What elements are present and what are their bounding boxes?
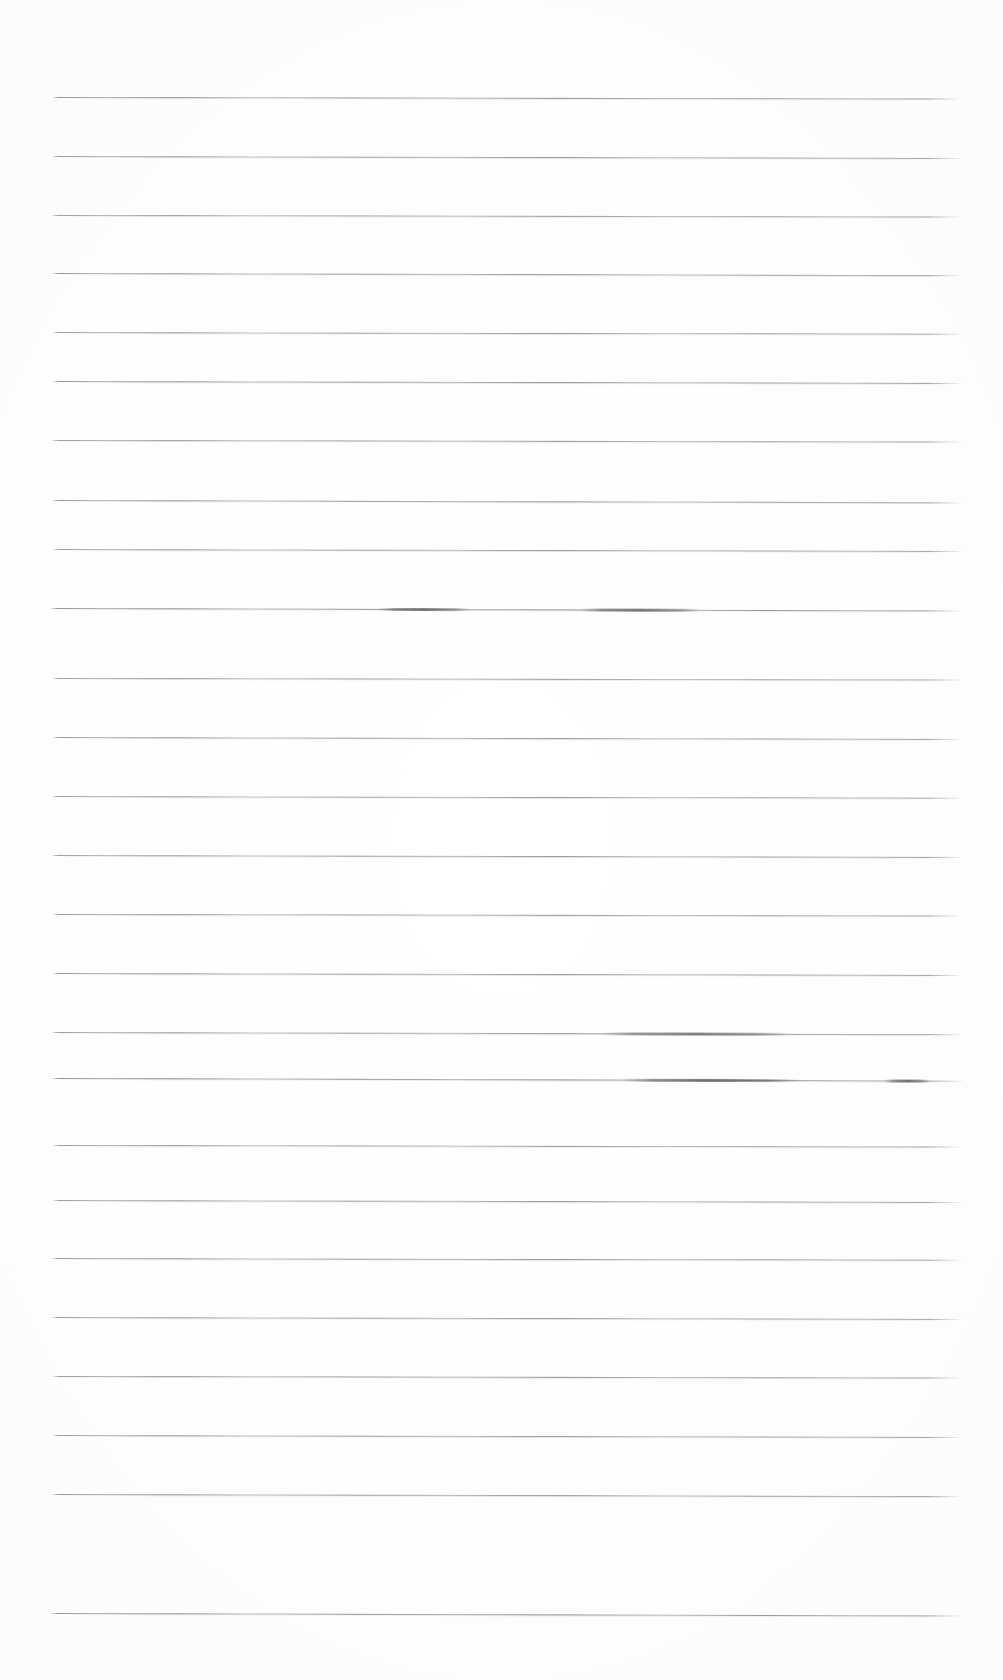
ruled-line-scan-bleed (61, 974, 954, 977)
ruled-line-scan-bleed (60, 1033, 955, 1036)
ruled-line-scan-bleed (61, 333, 955, 336)
ruled-line (52, 97, 962, 101)
ruled-line-scan-bleed (61, 157, 954, 160)
ruled-line (50, 1613, 962, 1618)
ruled-line (51, 500, 964, 504)
ruled-line (51, 796, 964, 800)
ruled-line (52, 156, 963, 160)
ruled-line-stroke (51, 440, 963, 443)
ruled-line-stroke (51, 1032, 964, 1035)
ruled-line-stroke (52, 973, 963, 976)
ruled-line-scan-bleed (59, 1614, 953, 1617)
ruled-line-stroke (50, 608, 962, 612)
ruled-line-stroke (52, 97, 962, 100)
ruled-line-stroke (52, 332, 964, 335)
ruled-line-scan-bleed (61, 1201, 954, 1204)
ink-smudge (580, 608, 700, 611)
ruled-line (52, 973, 963, 977)
ink-smudge (378, 608, 470, 611)
ruled-line-stroke (51, 215, 963, 218)
ruled-line-scan-bleed (61, 915, 954, 918)
ruled-line (51, 1317, 964, 1321)
ruled-line (52, 1435, 963, 1439)
ruled-line-scan-bleed (60, 797, 955, 800)
ruled-line-stroke (51, 273, 964, 276)
ruled-line-scan-bleed (61, 1377, 954, 1380)
ruled-line-stroke (51, 796, 964, 799)
ruled-line-scan-bleed (61, 1146, 954, 1149)
ruled-line-stroke (51, 855, 964, 858)
ruled-line-scan-bleed (60, 441, 954, 444)
ruled-line-scan-bleed (59, 609, 953, 612)
ruled-line-scan-bleed (61, 550, 955, 553)
ruled-line-stroke (52, 1200, 963, 1203)
ruled-line-stroke (51, 1317, 964, 1320)
ruled-line (51, 855, 964, 859)
ruled-line-stroke (52, 549, 964, 552)
ruled-line (52, 914, 963, 918)
ruled-line-stroke (52, 1145, 963, 1148)
ruled-line (51, 1078, 965, 1083)
ruled-line-scan-bleed (60, 501, 955, 504)
ruled-line-stroke (51, 500, 964, 503)
ruled-line-scan-bleed (60, 274, 955, 277)
ruled-line (50, 608, 962, 613)
ruled-lines-group (0, 0, 1003, 1680)
ink-smudge (620, 1079, 800, 1083)
ruled-line (52, 678, 963, 682)
ruled-line-scan-bleed (60, 216, 954, 219)
ruled-line (52, 1145, 963, 1149)
ruled-line-stroke (52, 1376, 963, 1379)
ink-smudge (885, 1079, 930, 1082)
ruled-line-stroke (52, 737, 963, 740)
ruled-line (51, 215, 963, 219)
ruled-line (52, 332, 964, 336)
ruled-line (52, 381, 963, 385)
ruled-line-scan-bleed (60, 1259, 955, 1262)
ruled-line (51, 1494, 964, 1498)
ruled-line-scan-bleed (60, 856, 955, 859)
ruled-line (51, 1032, 964, 1036)
ruled-line-stroke (51, 1258, 964, 1261)
ruled-line-scan-bleed (61, 98, 953, 101)
ruled-line-stroke (52, 678, 963, 681)
scanned-page (0, 0, 1003, 1680)
ruled-line (51, 273, 964, 277)
ruled-line (51, 440, 963, 444)
ruled-line (52, 737, 963, 741)
ruled-line-scan-bleed (61, 1436, 954, 1439)
ink-smudge (600, 1032, 790, 1035)
ruled-line-stroke (52, 156, 963, 159)
ruled-line-stroke (52, 1435, 963, 1438)
ruled-line-scan-bleed (61, 679, 954, 682)
ruled-line (52, 1200, 963, 1204)
ruled-line-scan-bleed (61, 382, 954, 385)
ruled-line-scan-bleed (60, 1495, 955, 1498)
ruled-line (51, 1258, 964, 1262)
ruled-line-stroke (51, 1494, 964, 1497)
ruled-line-stroke (52, 914, 963, 917)
ruled-line-stroke (52, 381, 963, 384)
ruled-line (52, 1376, 963, 1380)
ruled-line-scan-bleed (60, 1318, 955, 1321)
ruled-line-stroke (51, 1078, 965, 1082)
ruled-line-scan-bleed (61, 738, 954, 741)
ruled-line-stroke (50, 1613, 962, 1617)
ruled-line (52, 549, 964, 553)
ruled-line-scan-bleed (60, 1079, 956, 1083)
